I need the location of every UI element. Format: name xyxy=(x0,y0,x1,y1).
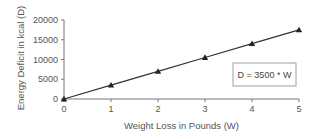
equation-box: D = 3500 * W xyxy=(233,63,296,86)
y-axis-title: Energy Deficit in kcal (D) xyxy=(15,6,26,111)
x-tick-label: 0 xyxy=(61,104,66,114)
line-chart: 05000100001500020000 012345 Weight Loss … xyxy=(0,0,315,139)
y-tick-label: 0 xyxy=(53,94,58,104)
axes xyxy=(64,20,299,99)
y-tick-label: 20000 xyxy=(33,15,58,25)
x-tick-label: 4 xyxy=(249,104,254,114)
y-tick-label: 10000 xyxy=(33,55,58,65)
x-tick-label: 5 xyxy=(296,104,301,114)
equation-label: D = 3500 * W xyxy=(238,70,292,80)
y-tick-label: 5000 xyxy=(38,74,58,84)
x-axis-title: Weight Loss in Pounds (W) xyxy=(124,120,239,131)
x-tick-label: 2 xyxy=(155,104,160,114)
y-tick-label: 15000 xyxy=(33,35,58,45)
x-tick-label: 3 xyxy=(202,104,207,114)
x-tick-label: 1 xyxy=(108,104,113,114)
x-ticks: 012345 xyxy=(61,99,301,114)
triangle-marker xyxy=(296,27,302,33)
y-ticks: 05000100001500020000 xyxy=(33,15,64,104)
